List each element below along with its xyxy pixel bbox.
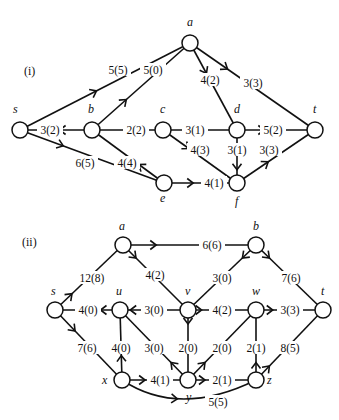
edge-capacity-flow-label: 2(0) xyxy=(178,342,197,355)
node-label: d xyxy=(234,102,241,116)
edge-u-s: 4(0) xyxy=(55,303,120,317)
edge-capacity-flow-label: 3(3) xyxy=(280,304,299,317)
node-circle xyxy=(248,302,264,318)
edge-capacity-flow-label: 3(1) xyxy=(185,124,204,137)
edge-d-t: 5(2) xyxy=(237,123,315,137)
node-label: v xyxy=(185,284,191,298)
edge-capacity-flow-label: 4(4) xyxy=(117,157,136,170)
node-f: f xyxy=(229,175,245,208)
node-u: u xyxy=(112,284,128,318)
edge-b-v: 3(0) xyxy=(188,245,256,310)
edge-capacity-flow-label: 5(5) xyxy=(208,396,227,409)
edge-capacity-flow-label: 8(5) xyxy=(280,342,299,355)
node-label: b xyxy=(88,102,94,116)
node-label: w xyxy=(252,284,260,298)
node-t: t xyxy=(315,284,331,318)
node-label: z xyxy=(266,373,272,387)
node-w: w xyxy=(248,284,264,318)
node-s: s xyxy=(12,102,28,138)
node-label: t xyxy=(321,284,325,298)
node-circle xyxy=(229,175,245,191)
node-label: y xyxy=(185,390,192,404)
node-circle xyxy=(12,122,28,138)
node-circle xyxy=(155,122,171,138)
node-v: v xyxy=(180,284,196,318)
node-circle xyxy=(84,122,100,138)
node-c: c xyxy=(155,102,171,138)
node-circle xyxy=(307,122,323,138)
edge-capacity-flow-label: 4(1) xyxy=(204,177,223,190)
edge-capacity-flow-label: 4(2) xyxy=(145,269,164,282)
node-circle xyxy=(248,372,264,388)
edge-capacity-flow-label: 3(2) xyxy=(40,124,59,137)
node-circle xyxy=(180,372,196,388)
flow-network-diagram: (i)5(5)5(0)4(2)3(3)3(2)2(2)3(1)5(2)6(5)4… xyxy=(0,0,339,420)
node-z: z xyxy=(248,372,272,388)
edge-d-c: 3(1) xyxy=(163,123,237,137)
node-circle xyxy=(156,175,172,191)
edge-capacity-flow-label: 4(1) xyxy=(150,374,169,387)
node-t: t xyxy=(307,102,323,138)
node-label: s xyxy=(13,102,18,116)
edge-line xyxy=(20,43,190,130)
node-circle xyxy=(112,302,128,318)
graph-caption: (ii) xyxy=(22,235,37,249)
edge-line xyxy=(190,43,237,130)
node-circle xyxy=(114,372,130,388)
edge-v-w: 4(2) xyxy=(188,303,256,317)
node-label: f xyxy=(235,194,240,208)
edge-capacity-flow-label: 2(2) xyxy=(126,124,145,137)
edge-capacity-flow-label: 6(6) xyxy=(202,239,221,252)
edge-e-f: 4(1) xyxy=(164,176,237,190)
edge-line xyxy=(237,130,315,183)
node-x: x xyxy=(101,372,130,388)
edge-capacity-flow-label: 4(0) xyxy=(78,304,97,317)
edge-x-y: 4(1) xyxy=(122,373,188,387)
edge-c-b: 2(2) xyxy=(92,123,163,137)
node-label: c xyxy=(160,102,166,116)
edge-capacity-flow-label: 5(5) xyxy=(108,64,127,77)
edge-b-t: 7(6) xyxy=(256,245,323,310)
node-label: u xyxy=(116,284,122,298)
edge-capacity-flow-label: 3(1) xyxy=(227,144,246,157)
edge-capacity-flow-label: 3(3) xyxy=(243,77,262,90)
edge-a-v: 4(2) xyxy=(123,245,188,310)
node-b: b xyxy=(84,102,100,138)
node-circle xyxy=(248,237,264,253)
node-label: t xyxy=(313,102,317,116)
edge-a-t: 3(3) xyxy=(190,43,315,130)
node-circle xyxy=(115,237,131,253)
node-label: a xyxy=(119,219,125,233)
edge-capacity-flow-label: 3(0) xyxy=(212,272,231,285)
edge-c-f: 4(3) xyxy=(163,130,237,183)
edge-capacity-flow-label: 2(0) xyxy=(212,342,231,355)
edge-capacity-flow-label: 7(6) xyxy=(77,342,96,355)
edge-line xyxy=(163,130,237,183)
node-circle xyxy=(180,302,196,318)
edge-capacity-flow-label: 4(0) xyxy=(111,342,130,355)
edge-a-d: 4(2) xyxy=(190,43,237,130)
edge-s-a: 12(8) xyxy=(55,245,123,310)
node-e: e xyxy=(156,175,172,205)
edge-s-a: 5(5) xyxy=(20,43,190,130)
graph-ii: (ii)6(6)12(8)4(2)3(0)7(6)4(0)3(0)4(2)3(3… xyxy=(22,219,331,409)
edge-capacity-flow-label: 4(3) xyxy=(190,144,209,157)
node-label: b xyxy=(253,219,259,233)
node-circle xyxy=(315,302,331,318)
node-b: b xyxy=(248,219,264,253)
node-label: a xyxy=(187,15,193,29)
edge-capacity-flow-label: 5(2) xyxy=(263,124,282,137)
edge-capacity-flow-label: 7(6) xyxy=(281,272,300,285)
node-label: e xyxy=(160,191,166,205)
node-a: a xyxy=(182,15,198,51)
edge-capacity-flow-label: 5(0) xyxy=(143,64,162,77)
edge-capacity-flow-label: 4(2) xyxy=(200,74,219,87)
edge-capacity-flow-label: 2(1) xyxy=(212,374,231,387)
graph-caption: (i) xyxy=(24,64,35,78)
node-s: s xyxy=(47,284,63,318)
node-circle xyxy=(182,35,198,51)
node-circle xyxy=(229,122,245,138)
edge-capacity-flow-label: 3(3) xyxy=(259,144,278,157)
edge-capacity-flow-label: 3(0) xyxy=(144,304,163,317)
edge-a-b: 6(6) xyxy=(123,238,256,252)
